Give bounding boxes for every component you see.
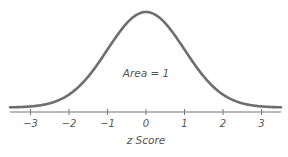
x-tick-label: 1 — [181, 118, 187, 129]
x-tick-label: −2 — [62, 118, 77, 129]
x-tick-label: 3 — [258, 118, 264, 129]
x-tick-label: −3 — [23, 118, 38, 129]
area-annotation: Area = 1 — [122, 67, 170, 79]
x-axis-label: z Score — [126, 134, 166, 146]
x-tick-label: 0 — [143, 118, 149, 129]
x-tick-label: 2 — [220, 118, 226, 129]
normal-curve — [10, 12, 281, 107]
x-axis-tick-labels: −3−2−10123 — [23, 118, 265, 129]
x-tick-label: −1 — [100, 118, 115, 129]
normal-curve-chart: −3−2−10123 Area = 1 z Score — [0, 0, 288, 157]
